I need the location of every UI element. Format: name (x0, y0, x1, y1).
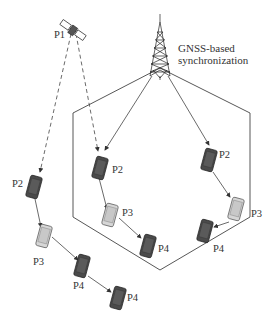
label-inside-left-p4: P4 (158, 243, 169, 254)
label-satellite: P1 (54, 29, 65, 40)
satellite-links (40, 34, 98, 172)
sync-diagram: GNSS-based synchronization P1 P2 P3 P4 P… (0, 0, 273, 323)
phone-inside-left-p3 (101, 203, 118, 227)
label-outside-p4b: P4 (127, 292, 138, 303)
annotation-line2: synchronization (178, 54, 248, 66)
phone-outside-p2 (25, 175, 42, 199)
label-inside-left-p2: P2 (112, 164, 123, 175)
phone-outside-p4a (73, 254, 90, 278)
label-outside-p2: P2 (12, 178, 23, 189)
label-inside-right-p4: P4 (213, 243, 224, 254)
tower-links (105, 76, 209, 150)
cell-tower-icon (150, 14, 170, 80)
label-outside-p4a: P4 (73, 280, 84, 291)
label-inside-right-p2: P2 (219, 149, 230, 160)
phones (25, 148, 244, 310)
phone-inside-right-p3 (227, 197, 244, 221)
phone-inside-right-p2 (200, 148, 217, 172)
label-outside-p3: P3 (33, 256, 44, 267)
label-inside-right-p3: P3 (251, 208, 262, 219)
phone-inside-left-p4 (139, 234, 156, 258)
phone-inside-left-p2 (91, 156, 108, 180)
phone-outside-p4b (109, 286, 126, 310)
annotation-line1: GNSS-based (178, 42, 235, 54)
phone-outside-p3 (35, 224, 52, 248)
label-inside-left-p3: P3 (122, 207, 133, 218)
